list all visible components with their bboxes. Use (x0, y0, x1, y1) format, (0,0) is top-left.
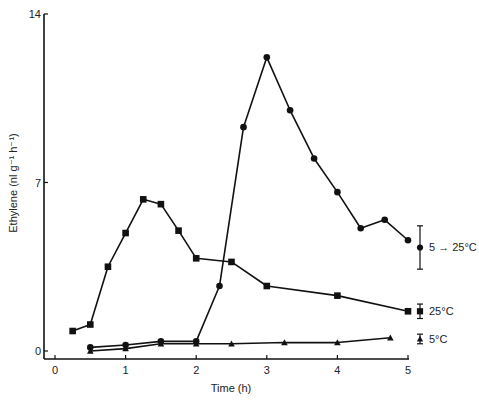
series-line (90, 57, 408, 347)
circle-marker (311, 155, 318, 162)
square-marker (122, 230, 129, 237)
square-marker (158, 201, 165, 208)
square-marker (417, 308, 423, 314)
legend-item: 25°C (417, 304, 454, 318)
y-tick-label: 0 (35, 345, 41, 357)
ethylene-chart: 0123450714 5 → 25°C25°C5°C Time (h) Ethy… (0, 0, 479, 406)
circle-marker (216, 283, 223, 290)
legend-item: 5°C (417, 333, 448, 345)
square-marker (264, 283, 271, 290)
axes: 0123450714 (29, 8, 411, 376)
series-layer (69, 54, 411, 354)
square-marker (69, 328, 76, 335)
square-marker (405, 308, 412, 315)
legend-label: 5°C (429, 333, 448, 345)
circle-marker (405, 237, 412, 244)
series-square (69, 196, 411, 334)
x-tick-label: 3 (264, 364, 270, 376)
x-tick-label: 0 (52, 364, 58, 376)
circle-marker (240, 124, 247, 131)
legend-label: 5 → 25°C (429, 241, 477, 253)
square-marker (228, 259, 235, 266)
square-marker (193, 255, 200, 262)
y-axis-title: Ethylene (nl g⁻¹ h⁻¹) (7, 133, 19, 232)
triangle-marker (417, 336, 423, 342)
circle-marker (357, 225, 364, 232)
x-tick-label: 2 (193, 364, 199, 376)
circle-marker (381, 217, 388, 224)
x-axis-title: Time (h) (211, 382, 252, 394)
square-marker (140, 196, 147, 203)
square-marker (87, 321, 94, 328)
series-line (73, 199, 408, 331)
y-tick-label: 7 (35, 177, 41, 189)
circle-marker (264, 54, 271, 61)
square-marker (334, 292, 341, 299)
y-tick-label: 14 (29, 8, 41, 20)
square-marker (105, 263, 112, 270)
legend-label: 25°C (429, 305, 454, 317)
circle-marker (417, 244, 423, 250)
x-tick-label: 4 (334, 364, 340, 376)
square-marker (175, 227, 182, 234)
series-circle (87, 54, 411, 351)
x-tick-label: 1 (123, 364, 129, 376)
legend-item: 5 → 25°C (417, 226, 477, 269)
circle-marker (334, 189, 341, 196)
circle-marker (287, 107, 294, 114)
legend: 5 → 25°C25°C5°C (417, 226, 477, 345)
x-tick-label: 5 (405, 364, 411, 376)
